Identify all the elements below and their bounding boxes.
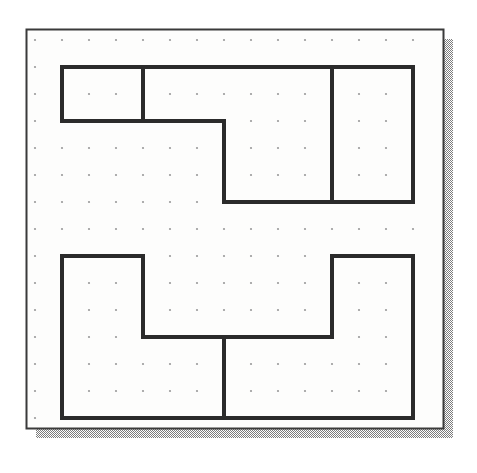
grid-dot [196, 363, 198, 365]
grid-dot [304, 390, 306, 392]
grid-dot [277, 390, 279, 392]
grid-dot [169, 174, 171, 176]
grid-dot [385, 228, 387, 230]
grid-dot [34, 417, 36, 419]
grid-dot [304, 282, 306, 284]
grid-dot [169, 390, 171, 392]
dot-grid-figure [0, 0, 477, 473]
grid-dot [250, 255, 252, 257]
grid-dot [142, 174, 144, 176]
grid-dot [250, 309, 252, 311]
grid-dot [196, 201, 198, 203]
grid-dot [277, 147, 279, 149]
grid-dot [61, 174, 63, 176]
grid-dot [223, 39, 225, 41]
grid-dot [304, 147, 306, 149]
grid-dot [304, 93, 306, 95]
grid-dot [196, 390, 198, 392]
grid-dot [115, 336, 117, 338]
grid-dot [34, 282, 36, 284]
grid-dot [34, 390, 36, 392]
grid-dot [250, 120, 252, 122]
grid-dot [385, 282, 387, 284]
grid-dot [196, 282, 198, 284]
grid-dot [88, 282, 90, 284]
grid-dot [34, 309, 36, 311]
grid-dot [358, 390, 360, 392]
grid-dot [196, 147, 198, 149]
grid-dot [88, 39, 90, 41]
grid-dot [142, 147, 144, 149]
grid-dot [34, 93, 36, 95]
grid-dot [196, 93, 198, 95]
grid-dot [88, 228, 90, 230]
grid-dot [169, 255, 171, 257]
grid-dot [169, 147, 171, 149]
grid-dot [169, 201, 171, 203]
grid-dot [385, 120, 387, 122]
grid-dot [34, 336, 36, 338]
grid-dot [304, 174, 306, 176]
grid-dot [88, 336, 90, 338]
grid-dot [142, 390, 144, 392]
grid-dot [304, 309, 306, 311]
grid-dot [88, 174, 90, 176]
grid-dot [304, 255, 306, 257]
grid-dot [169, 309, 171, 311]
grid-dot [277, 39, 279, 41]
grid-dot [223, 228, 225, 230]
grid-dot [358, 39, 360, 41]
grid-dot [358, 147, 360, 149]
figure-stage [0, 0, 477, 473]
grid-dot [115, 228, 117, 230]
grid-dot [358, 336, 360, 338]
grid-dot [250, 174, 252, 176]
grid-dot [223, 93, 225, 95]
grid-dot [34, 174, 36, 176]
grid-dot [358, 363, 360, 365]
grid-dot [196, 228, 198, 230]
grid-dot [34, 363, 36, 365]
grid-dot [277, 282, 279, 284]
grid-dot [34, 120, 36, 122]
grid-dot [61, 228, 63, 230]
grid-dot [277, 120, 279, 122]
grid-dot [169, 363, 171, 365]
grid-dot [277, 255, 279, 257]
grid-dot [142, 39, 144, 41]
grid-dot [331, 363, 333, 365]
grid-dot [61, 147, 63, 149]
grid-dot [115, 39, 117, 41]
grid-dot [169, 228, 171, 230]
grid-dot [115, 93, 117, 95]
grid-dot [34, 39, 36, 41]
grid-dot [142, 228, 144, 230]
grid-dot [169, 39, 171, 41]
grid-dot [34, 228, 36, 230]
grid-dot [277, 93, 279, 95]
grid-dot [358, 282, 360, 284]
grid-dot [88, 147, 90, 149]
grid-dot [115, 390, 117, 392]
grid-dot [115, 147, 117, 149]
grid-dot [142, 363, 144, 365]
grid-dot [88, 363, 90, 365]
grid-dot [250, 363, 252, 365]
grid-dot [196, 39, 198, 41]
grid-dot [61, 201, 63, 203]
grid-dot [250, 282, 252, 284]
grid-dot [115, 174, 117, 176]
grid-dot [115, 282, 117, 284]
grid-dot [169, 282, 171, 284]
grid-dot [169, 93, 171, 95]
grid-dot [115, 363, 117, 365]
grid-dot [277, 309, 279, 311]
grid-dot [304, 120, 306, 122]
grid-dot [34, 255, 36, 257]
grid-dot [61, 39, 63, 41]
grid-dot [358, 309, 360, 311]
grid-dot [412, 228, 414, 230]
grid-dot [304, 363, 306, 365]
grid-dot [358, 93, 360, 95]
grid-dot [304, 228, 306, 230]
